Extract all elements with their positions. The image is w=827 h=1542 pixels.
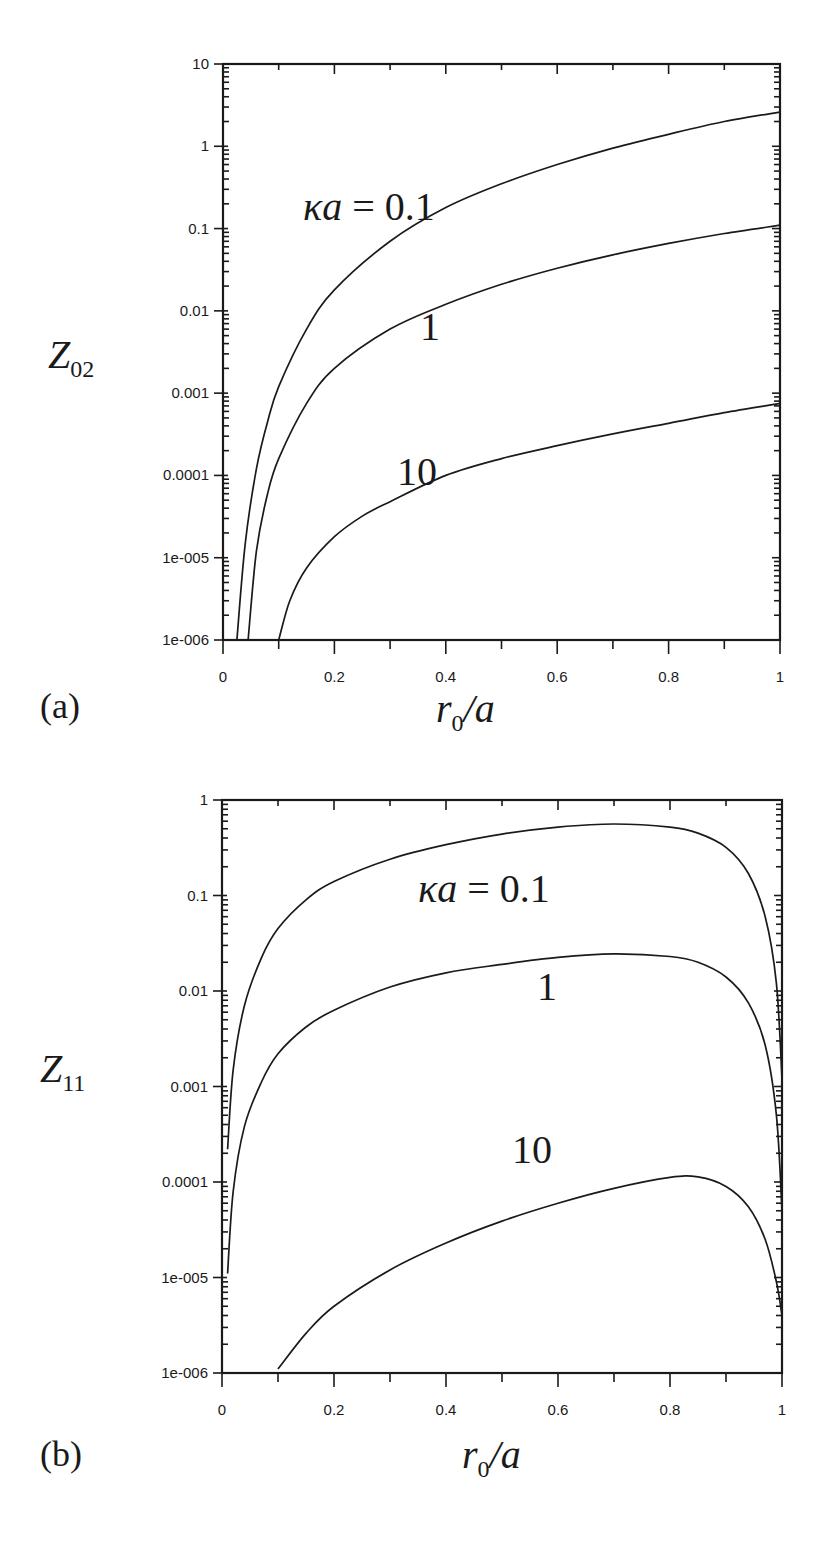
panel-b-y-tick-labels: 10.10.010.0010.00011e-0051e-006 — [161, 791, 208, 1381]
panel-a-ticks — [214, 64, 780, 654]
figure: 1010.10.010.0010.00011e-0051e-006 00.20.… — [0, 0, 827, 1542]
panel-b-annotation-ka-0.1: κa = 0.1 — [418, 866, 550, 911]
curve-a10 — [278, 1176, 782, 1369]
x-tick-label: 0 — [218, 1401, 226, 1418]
panel-a-chart: 1010.10.010.0010.00011e-0051e-006 00.20.… — [40, 55, 784, 736]
curve-a1 — [248, 225, 780, 640]
panel-b-annotation-ka-10: 10 — [512, 1127, 552, 1172]
panel-a-annotation-ka-0.1: κa = 0.1 — [303, 184, 435, 229]
x-tick-label: 0.2 — [324, 1401, 345, 1418]
panel-b-x-axis-label: r0/a — [462, 1432, 521, 1482]
y-tick-label: 0.001 — [170, 1078, 208, 1095]
y-tick-label: 1e-005 — [162, 549, 209, 566]
curve-a10 — [279, 403, 780, 640]
x-tick-label: 0.4 — [435, 668, 456, 685]
panel-a-annotation-ka-1: 1 — [420, 304, 440, 349]
y-tick-label: 10 — [192, 55, 209, 72]
panel-b-x-tick-labels: 00.20.40.60.81 — [218, 1401, 786, 1418]
curve-a1 — [228, 954, 782, 1274]
y-tick-label: 0.0001 — [163, 466, 209, 483]
y-tick-label: 0.01 — [179, 982, 208, 999]
x-tick-label: 0.8 — [658, 668, 679, 685]
y-tick-label: 0.01 — [180, 302, 209, 319]
y-tick-label: 1e-006 — [162, 631, 209, 648]
panel-b-label: (b) — [40, 1434, 82, 1474]
panel-a-annotation-ka-10: 10 — [397, 449, 437, 494]
x-tick-label: 1 — [776, 668, 784, 685]
panel-a-x-axis-label: r0/a — [436, 686, 495, 736]
x-tick-label: 1 — [778, 1401, 786, 1418]
panel-b-chart: 10.10.010.0010.00011e-0051e-006 00.20.40… — [40, 791, 786, 1482]
x-tick-label: 0.6 — [548, 1401, 569, 1418]
y-tick-label: 1 — [200, 791, 208, 808]
y-tick-label: 0.1 — [187, 887, 208, 904]
x-tick-label: 0.8 — [660, 1401, 681, 1418]
y-tick-label: 1e-005 — [161, 1269, 208, 1286]
y-tick-label: 1e-006 — [161, 1364, 208, 1381]
panel-a-y-axis-label: Z02 — [48, 332, 94, 382]
x-tick-label: 0.6 — [547, 668, 568, 685]
panel-a-label: (a) — [40, 686, 80, 726]
panel-b-y-axis-label: Z11 — [40, 1046, 85, 1096]
y-tick-label: 0.001 — [171, 384, 209, 401]
x-tick-label: 0 — [219, 668, 227, 685]
y-tick-label: 0.0001 — [162, 1173, 208, 1190]
panel-a-plot-frame — [223, 64, 780, 640]
panel-a-x-tick-labels: 00.20.40.60.81 — [219, 668, 784, 685]
x-tick-label: 0.4 — [436, 1401, 457, 1418]
y-tick-label: 0.1 — [188, 220, 209, 237]
panel-b-annotation-ka-1: 1 — [537, 964, 557, 1009]
x-tick-label: 0.2 — [324, 668, 345, 685]
y-tick-label: 1 — [201, 137, 209, 154]
panel-a-y-tick-labels: 1010.10.010.0010.00011e-0051e-006 — [162, 55, 209, 648]
